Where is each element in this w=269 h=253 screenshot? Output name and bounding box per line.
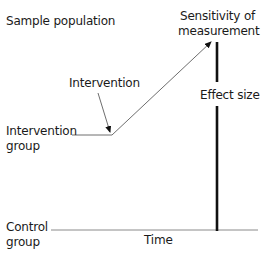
effect-size-label: Effect size (200, 88, 260, 102)
intervention-group-label-line2: group (6, 139, 40, 153)
control-group-label-line1: Control (6, 220, 48, 234)
diagram-canvas: Sample population Sensitivity of measure… (0, 0, 269, 253)
intervention-label: Intervention (69, 76, 140, 90)
control-group-label-line2: group (6, 235, 40, 249)
time-axis-label: Time (144, 233, 173, 247)
intervention-group-label-line1: Intervention (6, 124, 77, 138)
sample-population-label: Sample population (6, 14, 115, 28)
sensitivity-label-line2: measurement (178, 24, 260, 38)
intervention-pointer-arrow (98, 93, 110, 132)
sensitivity-label-line1: Sensitivity of (180, 9, 255, 23)
